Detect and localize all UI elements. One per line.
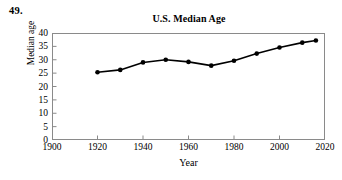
y-axis-tick-labels: 0510152025303540 (26, 33, 48, 140)
x-tick-label: 1960 (169, 142, 209, 152)
data-point-marker (118, 68, 123, 73)
exercise-number: 49. (9, 5, 23, 16)
x-tick-label: 1940 (123, 142, 163, 152)
data-point-marker (163, 57, 168, 62)
data-point-marker (314, 38, 319, 43)
y-tick-label: 40 (28, 29, 48, 38)
x-tick-label: 2000 (260, 142, 300, 152)
y-tick-label: 20 (28, 82, 48, 91)
x-axis-label: Year (52, 157, 325, 168)
y-tick-label: 10 (28, 109, 48, 118)
y-tick-label: 35 (28, 42, 48, 51)
data-point-marker (277, 45, 282, 50)
x-tick-label: 1980 (214, 142, 254, 152)
y-tick-label: 5 (28, 122, 48, 131)
data-point-marker (254, 51, 259, 56)
data-point-marker (186, 60, 191, 65)
x-tick-label: 2020 (305, 142, 342, 152)
y-tick-label: 25 (28, 69, 48, 78)
y-tick-label: 15 (28, 95, 48, 104)
figure: 49. U.S. Median Age Median age 051015202… (0, 0, 342, 180)
data-line (98, 40, 316, 72)
data-point-marker (209, 63, 214, 68)
data-point-marker (141, 60, 146, 65)
x-tick-label: 1900 (32, 142, 72, 152)
chart-title: U.S. Median Age (52, 13, 326, 24)
y-tick-label: 30 (28, 55, 48, 64)
x-tick-label: 1920 (78, 142, 118, 152)
data-point-marker (300, 40, 305, 45)
plot-canvas (52, 33, 325, 140)
x-axis-tick-labels: 1900192019401960198020002020 (52, 142, 325, 156)
data-point-marker (95, 70, 100, 75)
data-point-marker (232, 59, 237, 64)
